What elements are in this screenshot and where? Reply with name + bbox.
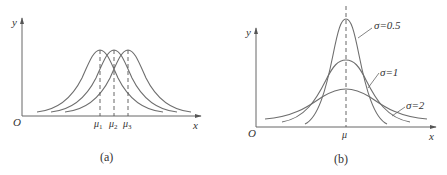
sigma-1-leader <box>368 73 379 88</box>
sigma-0.5-leader <box>358 28 372 38</box>
y-axis-label: y <box>11 16 17 28</box>
normal-distribution-diagram: y O x μ1 μ2 μ3 (a) σ=0.5 σ=1 σ=2 y O <box>0 0 447 175</box>
sigma-0.5-label: σ=0.5 <box>374 19 401 31</box>
origin-label: O <box>248 127 256 139</box>
y-axis-label: y <box>245 26 251 38</box>
panel-b: σ=0.5 σ=1 σ=2 y O x μ (b) <box>245 6 436 166</box>
mu1-label: μ1 <box>93 118 103 131</box>
mu3-label: μ3 <box>122 118 132 131</box>
panel-a: y O x μ1 μ2 μ3 (a) <box>11 16 201 164</box>
sigma-2-label: σ=2 <box>406 99 425 111</box>
x-axis-label: x <box>428 130 434 142</box>
origin-label: O <box>13 116 21 128</box>
caption-a: (a) <box>100 150 113 164</box>
mu-label: μ <box>341 129 347 140</box>
mu2-label: μ2 <box>108 118 118 131</box>
sigma-1-label: σ=1 <box>380 66 398 78</box>
x-axis-label: x <box>192 119 198 131</box>
caption-b: (b) <box>334 152 348 166</box>
